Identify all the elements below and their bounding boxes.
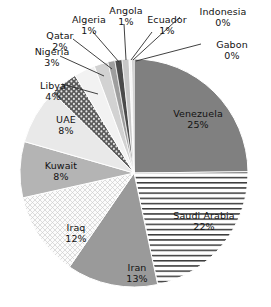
label-qatar-value: 2% <box>38 41 82 52</box>
label-saudi-arabia: Saudi Arabia 22% <box>168 210 240 232</box>
label-gabon: Gabon 0% <box>206 39 258 61</box>
label-ecuador-name: Ecuador <box>142 14 192 25</box>
label-ecuador-value: 1% <box>142 25 192 36</box>
label-nigeria-value: 3% <box>26 57 78 68</box>
label-iraq-name: Iraq <box>56 222 96 233</box>
label-saudi-arabia-name: Saudi Arabia <box>168 210 240 221</box>
label-kuwait: Kuwait 8% <box>35 160 87 182</box>
leader-line-angola <box>124 24 126 60</box>
label-uae-value: 8% <box>46 125 86 136</box>
label-gabon-value: 0% <box>206 50 258 61</box>
label-uae-name: UAE <box>46 114 86 125</box>
label-libya-value: 4% <box>30 91 76 102</box>
pie-chart: Nigeria 3% Libya 4% Qatar 2% Algeria 1% … <box>0 0 271 307</box>
label-indonesia: Indonesia 0% <box>192 6 254 28</box>
label-indonesia-name: Indonesia <box>192 6 254 17</box>
label-kuwait-name: Kuwait <box>35 160 87 171</box>
label-libya-name: Libya <box>30 80 76 91</box>
label-kuwait-value: 8% <box>35 171 87 182</box>
label-saudi-arabia-value: 22% <box>168 221 240 232</box>
label-ecuador: Ecuador 1% <box>142 14 192 36</box>
label-iran: Iran 13% <box>117 262 157 284</box>
leader-line-gabon <box>136 44 201 61</box>
label-uae: UAE 8% <box>46 114 86 136</box>
label-iraq-value: 12% <box>56 233 96 244</box>
label-libya: Libya 4% <box>30 80 76 102</box>
label-venezuela: Venezuela 25% <box>165 108 231 130</box>
label-gabon-name: Gabon <box>206 39 258 50</box>
label-venezuela-value: 25% <box>165 119 231 130</box>
label-venezuela-name: Venezuela <box>165 108 231 119</box>
label-iran-name: Iran <box>117 262 157 273</box>
label-iraq: Iraq 12% <box>56 222 96 244</box>
label-iran-value: 13% <box>117 273 157 284</box>
label-indonesia-value: 0% <box>192 17 254 28</box>
